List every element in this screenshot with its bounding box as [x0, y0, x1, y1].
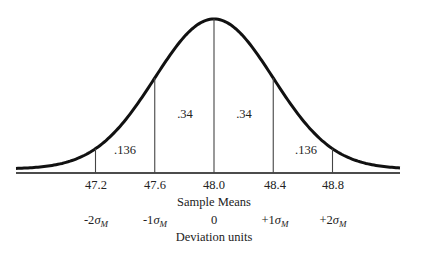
- tick-label: 47.2: [85, 178, 107, 193]
- tick-label: 48.8: [322, 178, 344, 193]
- area-label-1: .136: [114, 143, 136, 158]
- deviation-label: 0: [211, 213, 217, 228]
- tick-label: 48.4: [264, 178, 286, 193]
- tick-label: 47.6: [144, 178, 166, 193]
- deviation-label: +2σM: [320, 213, 347, 229]
- area-label-3: .34: [236, 107, 252, 122]
- x-axis-title: Sample Means: [177, 195, 251, 210]
- normal-curve: [16, 19, 400, 168]
- deviation-axis-title: Deviation units: [176, 230, 253, 245]
- deviation-label: -1σM: [143, 213, 167, 229]
- deviation-label: +1σM: [262, 213, 289, 229]
- tick-label: 48.0: [203, 178, 225, 193]
- area-label-2: .34: [177, 107, 193, 122]
- area-label-4: .136: [295, 143, 317, 158]
- deviation-label: -2σM: [84, 213, 108, 229]
